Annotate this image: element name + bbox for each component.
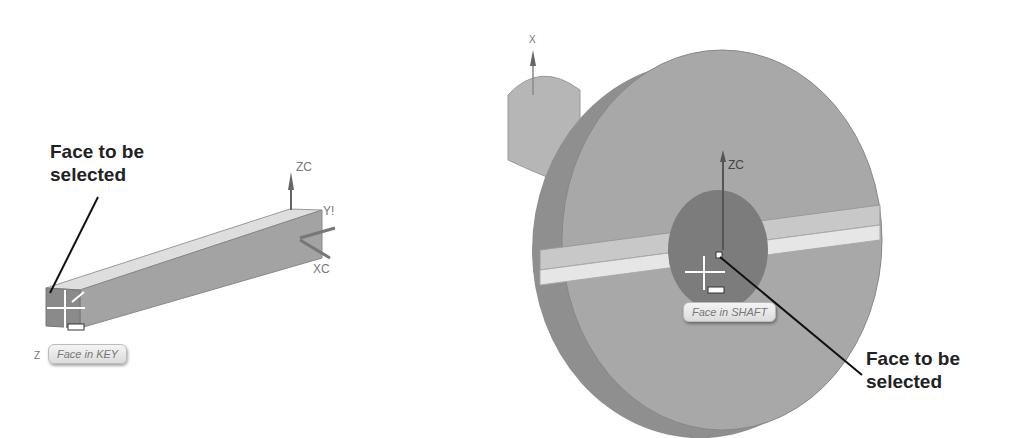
key-part[interactable]: [46, 209, 322, 328]
selection-tooltip-key: Face in KEY: [48, 344, 127, 364]
shaft-part[interactable]: [508, 50, 882, 438]
right-callout-label: Face to be selected: [866, 347, 960, 393]
axis-xc-label: XC: [313, 262, 330, 276]
selection-tooltip-shaft: Face in SHAFT: [683, 302, 776, 322]
axis-y-label: Y!: [323, 204, 334, 218]
callout-line: selected: [50, 163, 144, 186]
axis-x-top-label: X: [529, 34, 536, 45]
axis-zc-label-shaft: ZC: [728, 158, 744, 172]
axis-z-corner-label: Z: [34, 350, 40, 361]
callout-line: selected: [866, 370, 960, 393]
axis-zc-label: ZC: [296, 160, 312, 174]
callout-line: Face to be: [50, 140, 144, 163]
callout-line: Face to be: [866, 347, 960, 370]
left-callout-label: Face to be selected: [50, 140, 144, 186]
